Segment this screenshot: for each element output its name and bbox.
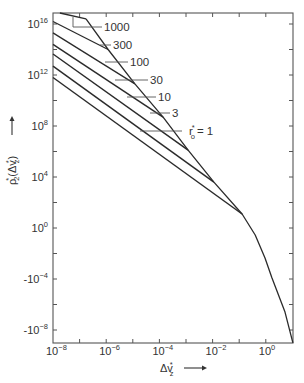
chart-canvas: 10−810−610−410−2100 10161012108104100-10… <box>0 0 304 383</box>
plot-frame <box>53 13 293 343</box>
x-tick-label: 100 <box>259 343 275 357</box>
y-tick-label: -10−8 <box>24 322 48 336</box>
y-tick-labels: 10161012108104100-10−4-10−8 <box>24 16 48 336</box>
curve-label: 100 <box>130 56 149 68</box>
svg-text:Δv*z: Δv*z <box>160 360 174 378</box>
curve-label: 30 <box>150 74 163 86</box>
curve-label: 300 <box>113 39 132 51</box>
curve-label-r1: r*o= 1 <box>189 123 213 141</box>
y-tick-label: 108 <box>32 118 48 132</box>
y-axis-title: ρ*2(Δv*z) <box>4 116 21 185</box>
axis-ticks <box>53 13 293 343</box>
curve-label: 3 <box>172 107 178 119</box>
x-tick-label: 10−2 <box>206 343 227 357</box>
envelope-curve <box>86 19 293 343</box>
x-tick-labels: 10−810−610−410−2100 <box>46 343 275 357</box>
x-axis-arrow-icon <box>184 366 207 371</box>
y-tick-label: -10−4 <box>24 271 48 285</box>
y-tick-label: 1016 <box>27 16 48 30</box>
curve-r0-300 <box>53 22 108 50</box>
plot-border <box>53 13 293 343</box>
svg-text:ρ*2(Δv*z): ρ*2(Δv*z) <box>4 156 21 185</box>
x-axis-title: Δv*z <box>160 360 207 378</box>
y-tick-label: 100 <box>32 220 48 234</box>
y-tick-label: 104 <box>32 169 48 183</box>
y-tick-label: 1012 <box>27 67 48 81</box>
x-tick-label: 10−8 <box>46 343 67 357</box>
x-tick-label: 10−4 <box>152 343 173 357</box>
curve-labels: r*o= 1310301003001000 <box>104 21 213 141</box>
curve-label: 10 <box>158 91 171 103</box>
x-tick-label: 10−6 <box>99 343 120 357</box>
data-curves <box>53 13 293 343</box>
curve-label: 1000 <box>104 21 130 33</box>
y-axis-arrow-icon <box>10 116 15 135</box>
